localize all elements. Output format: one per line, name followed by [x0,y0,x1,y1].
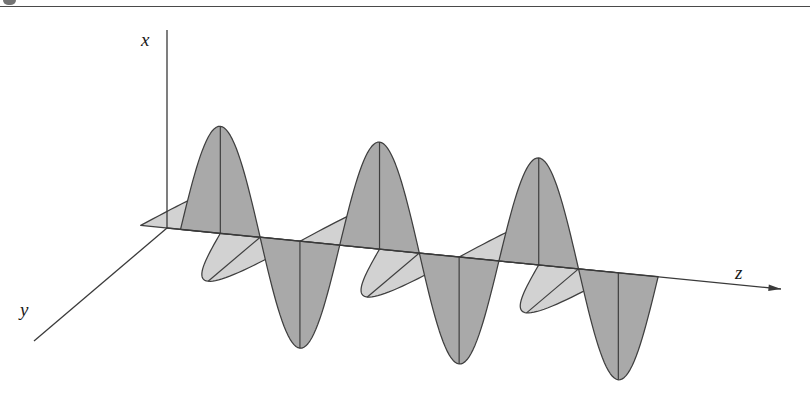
figure-root: x y z [0,0,810,407]
polarized-wave-diagram [0,0,810,407]
y-axis-line [34,228,167,341]
axes-group [34,30,781,341]
z-axis-arrowhead [768,284,781,291]
axis-label-z: z [735,263,742,282]
axis-label-y: y [20,300,28,319]
axis-label-x: x [141,30,149,49]
